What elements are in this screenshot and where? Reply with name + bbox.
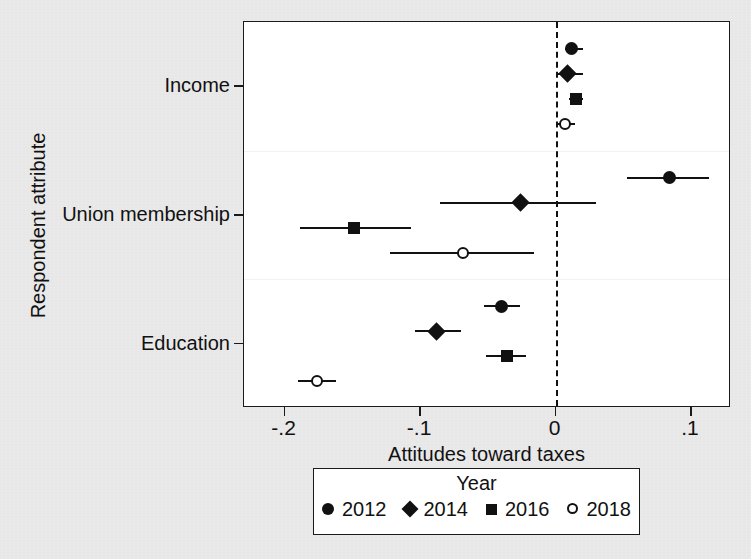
x-axis-title: Attitudes toward taxes — [243, 443, 730, 466]
filled-diamond-icon — [404, 503, 417, 516]
legend-entry-2016[interactable]: 2016 — [485, 498, 550, 521]
data-point-marker — [565, 42, 578, 55]
gridline — [244, 151, 729, 152]
estimate-row — [244, 296, 731, 316]
x-axis-tick — [555, 407, 557, 416]
y-axis-tick-label: Income — [164, 74, 230, 97]
y-axis-tick-label: Education — [141, 331, 230, 354]
y-axis-tick — [234, 214, 243, 216]
data-point-marker — [348, 222, 360, 234]
estimate-row — [244, 64, 731, 84]
estimate-row — [244, 39, 731, 59]
x-axis-tick-label: 0 — [549, 416, 561, 440]
data-point-marker — [311, 375, 323, 387]
legend: Year 2012201420162018 — [313, 468, 640, 535]
estimate-row — [244, 371, 731, 391]
x-axis-tick — [284, 407, 286, 416]
data-point-marker — [559, 118, 571, 130]
gridline — [244, 279, 729, 280]
legend-entry-label: 2018 — [587, 498, 632, 521]
data-point-marker — [663, 171, 676, 184]
estimate-row — [244, 321, 731, 341]
legend-items: 2012201420162018 — [314, 498, 639, 521]
estimate-row — [244, 218, 731, 238]
open-circle-icon — [567, 503, 580, 516]
data-point-marker — [495, 300, 508, 313]
y-axis-tick — [234, 85, 243, 87]
estimate-row — [244, 168, 731, 188]
filled-circle-icon — [322, 503, 335, 516]
data-point-marker — [511, 193, 529, 211]
legend-entry-2018[interactable]: 2018 — [567, 498, 632, 521]
x-axis-tick — [419, 407, 421, 416]
estimate-row — [244, 89, 731, 109]
legend-entry-label: 2014 — [424, 498, 469, 521]
y-axis-tick — [234, 343, 243, 345]
estimate-row — [244, 114, 731, 134]
legend-title: Year — [314, 472, 639, 495]
x-axis-tick-label: -.2 — [271, 416, 296, 440]
figure-canvas: -.2-.10.1 Attitudes toward taxes IncomeU… — [0, 0, 751, 559]
estimate-row — [244, 346, 731, 366]
legend-entry-label: 2012 — [342, 498, 387, 521]
data-point-marker — [427, 322, 445, 340]
y-axis-tick-label: Union membership — [62, 203, 230, 226]
data-point-marker — [559, 65, 577, 83]
legend-entry-2014[interactable]: 2014 — [404, 498, 469, 521]
data-point-marker — [501, 350, 513, 362]
plot-area — [243, 21, 730, 407]
legend-entry-2012[interactable]: 2012 — [322, 498, 387, 521]
estimate-row — [244, 193, 731, 213]
data-point-marker — [457, 247, 469, 259]
x-axis-tick — [690, 407, 692, 416]
legend-entry-label: 2016 — [505, 498, 550, 521]
filled-square-icon — [485, 503, 498, 516]
y-axis-title: Respondent attribute — [27, 96, 50, 356]
data-point-marker — [570, 93, 582, 105]
x-axis-tick-label: .1 — [681, 416, 699, 440]
estimate-row — [244, 243, 731, 263]
x-axis-tick-label: -.1 — [407, 416, 432, 440]
